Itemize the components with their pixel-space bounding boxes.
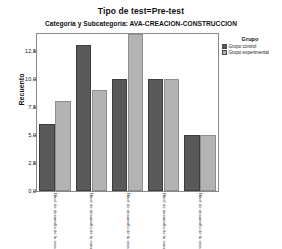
legend-item[interactable]: Grupo experimental bbox=[222, 50, 280, 55]
bar bbox=[76, 45, 92, 191]
bar bbox=[112, 79, 128, 191]
y-tick-mark bbox=[33, 163, 36, 164]
y-axis-ticks: 0,02,55,07,510,012,5 bbox=[12, 33, 36, 192]
y-tick-mark bbox=[33, 135, 36, 136]
x-tick-label: Nivel de desarrollo de la creación bbox=[53, 193, 58, 247]
legend-item-label: Grupo experimental bbox=[229, 50, 269, 55]
y-tick-mark bbox=[33, 79, 36, 80]
bar bbox=[55, 101, 71, 191]
bar bbox=[164, 79, 180, 191]
legend-swatch-icon bbox=[222, 44, 227, 49]
x-tick-label: Nivel de desarrollo de la creación bbox=[125, 193, 130, 247]
bar bbox=[92, 90, 108, 191]
y-tick-mark bbox=[33, 191, 36, 192]
bar-group bbox=[182, 34, 218, 191]
legend-item[interactable]: Grupo control bbox=[222, 44, 280, 49]
legend-swatch-icon bbox=[222, 50, 227, 55]
x-tick-label: Nivel de desarrollo de la construcción bbox=[89, 193, 94, 247]
bar-group bbox=[73, 34, 109, 191]
bar-group bbox=[109, 34, 145, 191]
legend-items: Grupo controlGrupo experimental bbox=[222, 44, 280, 55]
bar-group bbox=[146, 34, 182, 191]
chart-subtitle: Categoría y Subcategoría: AVA-CREACION-C… bbox=[0, 20, 282, 27]
x-axis-labels: Nivel de desarrollo de la creaciónNivel … bbox=[37, 193, 218, 249]
legend: Grupo Grupo controlGrupo experimental bbox=[222, 36, 280, 56]
bar bbox=[148, 79, 164, 191]
y-tick-mark bbox=[33, 51, 36, 52]
chart-container: Tipo de test=Pre-test Categoría y Subcat… bbox=[0, 0, 282, 249]
x-tick-label: Nivel de desarrollo de la creación bbox=[198, 193, 203, 247]
bar bbox=[39, 124, 55, 191]
legend-title: Grupo bbox=[220, 36, 280, 42]
y-tick-mark bbox=[33, 107, 36, 108]
bar bbox=[128, 34, 144, 191]
bar-group bbox=[37, 34, 73, 191]
x-tick-label: Nivel de desarrollo de la construcción bbox=[161, 193, 166, 247]
bars-layer bbox=[37, 34, 218, 191]
chart-title: Tipo de test=Pre-test bbox=[0, 6, 282, 16]
bar bbox=[184, 135, 200, 191]
bar bbox=[200, 135, 216, 191]
legend-item-label: Grupo control bbox=[229, 44, 257, 49]
